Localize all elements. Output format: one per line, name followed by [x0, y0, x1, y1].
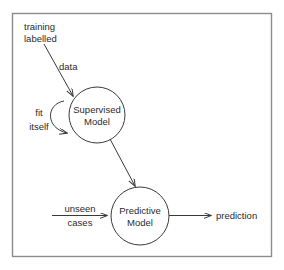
- node-predictive-model[interactable]: [111, 187, 169, 245]
- label-fit-itself-line1: fit: [35, 107, 43, 118]
- edge-supervised-to-predictive: [110, 139, 135, 186]
- label-training-labelled-line2: labelled: [24, 33, 57, 44]
- node-supervised-model-label-line1: Supervised: [73, 104, 121, 115]
- label-prediction: prediction: [216, 210, 257, 221]
- label-unseen-cases-line1: unseen: [64, 203, 95, 214]
- node-supervised-model[interactable]: [69, 87, 125, 143]
- node-predictive-model-label-line1: Predictive: [119, 205, 161, 216]
- supervised-learning-diagram: Supervised Model Predictive Model traini…: [0, 0, 284, 270]
- diagram-canvas: Supervised Model Predictive Model traini…: [0, 0, 284, 270]
- edge-fit-itself-self-loop: [50, 101, 67, 133]
- label-unseen-cases-line2: cases: [68, 217, 93, 228]
- node-predictive-model-label-line2: Model: [127, 217, 153, 228]
- label-training-labelled-line1: training: [24, 21, 55, 32]
- label-data: data: [59, 61, 78, 72]
- node-supervised-model-label-line2: Model: [84, 116, 110, 127]
- label-fit-itself-line2: itself: [29, 121, 49, 132]
